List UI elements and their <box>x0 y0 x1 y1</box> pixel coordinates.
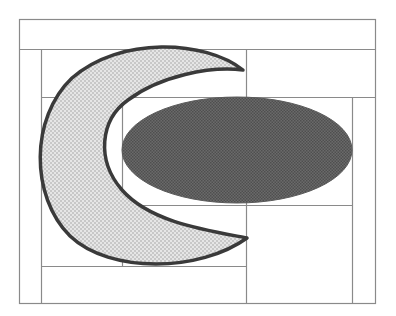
diagram-svg <box>0 0 396 316</box>
ellipse-shape <box>122 97 352 203</box>
diagram-canvas <box>0 0 396 316</box>
